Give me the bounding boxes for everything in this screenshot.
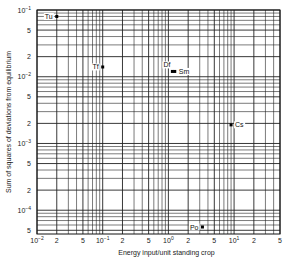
y-tick-label: 10−3 (18, 138, 32, 147)
y-tick-label: 5 (27, 93, 31, 100)
y-tick-label: 2 (27, 120, 31, 127)
x-tick-label: 2 (252, 237, 256, 244)
x-tick-label: 10−2 (30, 235, 44, 244)
y-axis-label: Sum of squares of deviations from equili… (5, 51, 13, 193)
y-axis-ticks: 10−15210−25210−35210−45 (18, 5, 32, 234)
data-point-tu (55, 15, 58, 18)
y-tick-label: 10−4 (18, 205, 32, 214)
y-tick-label: 5 (27, 160, 31, 167)
x-axis-label: Energy input/unit standing crop (118, 249, 215, 257)
x-tick-label: 2 (186, 237, 190, 244)
x-tick-label: 10−1 (96, 235, 110, 244)
point-label-tu: Tu (45, 13, 53, 20)
x-axis-ticks: 10−22510−1251002510125 (30, 235, 282, 244)
x-tick-label: 2 (121, 237, 125, 244)
data-points: TuTfDfSmCsPo (44, 13, 245, 231)
point-label-sm: Sm (179, 68, 190, 75)
data-point-po (201, 226, 204, 229)
point-label-po: Po (190, 224, 199, 231)
x-tick-label: 5 (81, 237, 85, 244)
x-tick-label: 5 (278, 237, 282, 244)
data-point-sm (173, 70, 176, 73)
y-tick-label: 5 (27, 27, 31, 34)
point-label-df: Df (163, 61, 170, 68)
y-tick-label: 5 (27, 227, 31, 234)
x-tick-label: 5 (212, 237, 216, 244)
chart: 10−22510−1251002510125 10−15210−25210−35… (0, 0, 286, 260)
x-tick-label: 5 (147, 237, 151, 244)
y-tick-label: 2 (27, 187, 31, 194)
y-tick-label: 10−2 (18, 71, 32, 80)
y-tick-label: 10−1 (18, 5, 32, 14)
data-point-cs (230, 123, 233, 126)
point-label-tf: Tf (92, 63, 98, 70)
data-point-tf (101, 65, 104, 68)
point-label-cs: Cs (235, 121, 244, 128)
y-tick-label: 2 (27, 53, 31, 60)
x-tick-label: 2 (55, 237, 59, 244)
x-tick-label: 101 (229, 235, 240, 244)
x-tick-label: 100 (163, 235, 174, 244)
